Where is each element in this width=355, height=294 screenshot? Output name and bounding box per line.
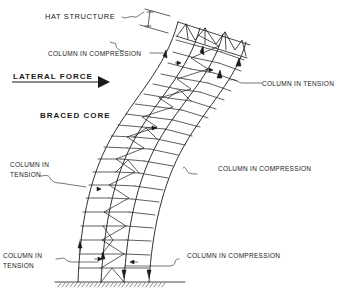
- structure-diagram: [0, 0, 355, 294]
- arrow-down-icon: [163, 50, 167, 58]
- column-outer-right: [149, 42, 246, 282]
- label-column-in-compression-right: COLUMN IN COMPRESSION: [218, 164, 311, 173]
- label-column-in-tension-bottom-2: TENSION: [3, 261, 34, 270]
- label-column-in-tension-left-2: TENSION: [10, 170, 41, 179]
- label-braced-core: BRACED CORE: [40, 111, 111, 120]
- arrow-right-icon: [98, 76, 110, 88]
- label-column-in-tension-right: COLUMN IN TENSION: [262, 79, 334, 88]
- label-column-in-tension-left: COLUMN IN: [10, 160, 49, 169]
- arrow-up-icon: [101, 252, 105, 259]
- hat-structure: [176, 22, 250, 58]
- arrow-down-icon: [122, 270, 126, 278]
- braced-core: [101, 35, 221, 282]
- ground: [55, 282, 185, 287]
- label-hat-structure: HAT STRUCTURE: [45, 12, 115, 21]
- label-column-in-tension-bottom: COLUMN IN: [3, 251, 42, 260]
- hat-dimension: [140, 9, 170, 33]
- label-lateral-force: LATERAL FORCE: [13, 72, 93, 81]
- column-core-right: [124, 34, 223, 282]
- column-core-left: [101, 28, 200, 282]
- label-column-in-compression-bottom: COLUMN IN COMPRESSION: [187, 251, 280, 260]
- label-column-in-compression-top: COLUMN IN COMPRESSION: [48, 49, 141, 58]
- arrow-down-icon: [147, 270, 151, 278]
